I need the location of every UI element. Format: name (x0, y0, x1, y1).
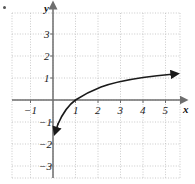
y-tick-neg2: −2 (39, 139, 52, 150)
x-tick-5: 5 (163, 105, 169, 116)
x-tick-neg1: −1 (24, 105, 37, 116)
plot-canvas (0, 0, 195, 184)
y-tick-1: 1 (44, 73, 50, 84)
y-tick-neg1: −1 (39, 117, 52, 128)
x-tick-3: 3 (118, 105, 124, 116)
y-tick-3: 3 (44, 29, 50, 40)
x-tick-1: 1 (73, 105, 79, 116)
y-tick-2: 2 (44, 51, 50, 62)
graph-figure: y x −1 1 2 3 4 5 3 2 1 −1 −2 −3 (0, 0, 195, 184)
y-tick-neg3: −3 (39, 161, 52, 172)
y-axis-label: y (44, 3, 49, 14)
axis-lines (12, 8, 181, 178)
x-axis-label: x (183, 104, 189, 115)
grid-lines (12, 13, 180, 178)
x-tick-4: 4 (140, 105, 146, 116)
x-tick-2: 2 (95, 105, 101, 116)
log-curve-lower-arrow (57, 124, 59, 129)
